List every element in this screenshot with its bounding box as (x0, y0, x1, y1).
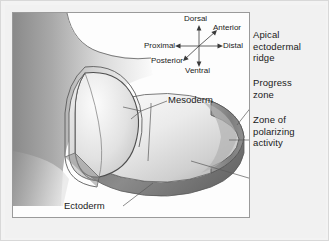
compass-label-proximal: Proximal (144, 41, 175, 50)
caption-progress-zone: Progress zone (253, 77, 292, 100)
label-ectoderm: Ectoderm (64, 200, 105, 211)
compass-label-ventral: Ventral (185, 66, 210, 75)
compass-label-posterior: Posterior (151, 56, 183, 65)
label-mesoderm: Mesoderm (168, 94, 213, 105)
caption-apical-ectodermal-ridge: Apical ectodermal ridge (253, 29, 301, 64)
caption-aer-line3: ridge (253, 52, 301, 64)
figure-container: Dorsal Anterior Proximal Distal Posterio… (0, 0, 329, 241)
caption-aer-line2: ectodermal (253, 41, 301, 53)
caption-column: Apical ectodermal ridge Progress zone Zo… (253, 15, 327, 221)
compass-label-anterior: Anterior (213, 23, 241, 32)
compass-label-dorsal: Dorsal (184, 14, 207, 23)
leader-aer (237, 106, 252, 125)
caption-pz-line1: Progress (253, 77, 292, 89)
caption-zpa-line1: Zone of (253, 114, 295, 126)
caption-zone-of-polarizing-activity: Zone of polarizing activity (253, 114, 295, 149)
compass-label-distal: Distal (223, 41, 243, 50)
caption-aer-line1: Apical (253, 29, 301, 41)
caption-pz-line2: zone (253, 89, 292, 101)
caption-zpa-line2: polarizing (253, 126, 295, 138)
caption-zpa-line3: activity (253, 137, 295, 149)
